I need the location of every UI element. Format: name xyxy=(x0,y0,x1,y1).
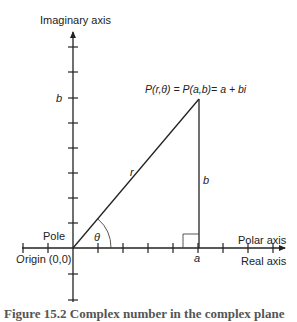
figure-caption: Figure 15.2 Complex number in the comple… xyxy=(4,306,284,322)
b-axis-label: b xyxy=(56,92,62,104)
r-vector xyxy=(73,99,199,248)
origin-label: rigin (0,0) xyxy=(25,253,71,265)
b-side-label: b xyxy=(203,174,209,186)
theta-label: θ xyxy=(94,231,100,243)
polar-axis-label: Polar axis xyxy=(238,234,287,246)
pole-label: Pole xyxy=(43,230,65,242)
a-label: a xyxy=(194,252,200,264)
right-angle-marker xyxy=(183,234,199,248)
real-axis-label: Real axis xyxy=(241,255,287,267)
imaginary-axis-label: Imaginary axis xyxy=(40,14,111,26)
origin-o-label: O xyxy=(16,253,25,265)
point-label: P(r,θ) = P(a,b)= a + bi xyxy=(145,83,247,95)
